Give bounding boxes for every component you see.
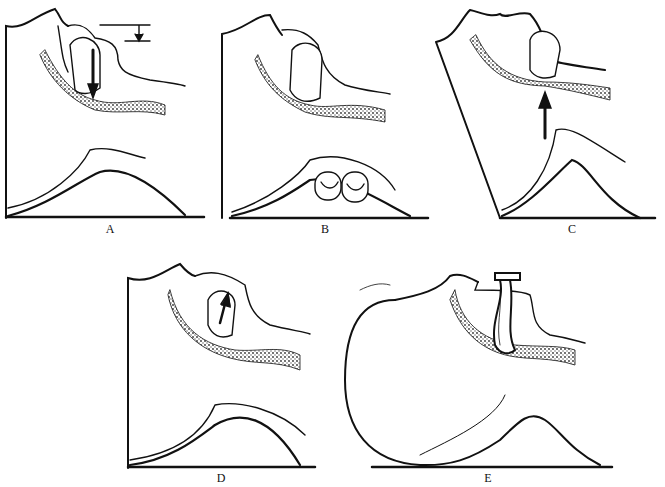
panel-label-e: E <box>484 471 491 486</box>
panel-c <box>436 10 655 218</box>
panel-label-b: B <box>321 222 329 237</box>
panel-label-a: A <box>106 222 115 237</box>
panel-a <box>6 9 204 218</box>
airway-figure <box>0 0 665 487</box>
panel-d <box>128 264 315 468</box>
panel-label-d: D <box>217 471 226 486</box>
panel-e <box>345 273 612 467</box>
panel-b <box>222 15 428 218</box>
panel-label-c: C <box>568 222 576 237</box>
